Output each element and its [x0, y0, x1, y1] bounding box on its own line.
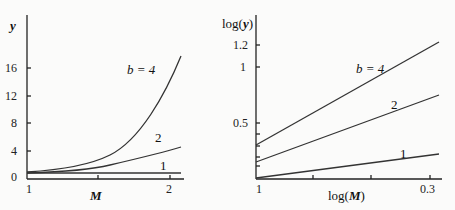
left-xtick-1: 1 [26, 182, 32, 196]
left-curve-b4 [27, 56, 181, 172]
left-label-2: 2 [155, 130, 162, 145]
figure: y 16 12 8 4 0 1 2 M b = 4 2 1 log(y) 1.2 [0, 0, 455, 210]
left-ytick-4: 4 [11, 144, 17, 158]
right-xtick-1: 1 [256, 182, 262, 196]
left-xtick-2: 2 [166, 182, 172, 196]
right-y-label: log(y) [222, 16, 253, 31]
right-label-b4: b = 4 [356, 61, 385, 76]
right-line-b1 [256, 154, 439, 178]
right-line-b2 [256, 95, 439, 162]
left-label-1: 1 [160, 158, 167, 173]
right-ytick-0.5: 0.5 [233, 116, 248, 130]
left-x-label: M [89, 188, 102, 203]
left-ytick-16: 16 [5, 61, 17, 75]
right-line-b4 [256, 42, 439, 145]
left-label-b4: b = 4 [127, 62, 156, 77]
left-ytick-0: 0 [11, 170, 17, 184]
right-ytick-1.2: 1.2 [233, 38, 248, 52]
right-chart: log(y) 1.2 1 0.5 1 0.3 log(M) b = 4 2 1 [222, 15, 442, 203]
right-label-2: 2 [391, 97, 398, 112]
left-y-label: y [8, 18, 16, 33]
left-chart: y 16 12 8 4 0 1 2 M b = 4 2 1 [5, 15, 184, 203]
left-ytick-12: 12 [5, 89, 17, 103]
right-label-1: 1 [400, 146, 407, 161]
right-ytick-1: 1 [240, 60, 246, 74]
right-xtick-0.3: 0.3 [420, 182, 435, 196]
left-curve-b2 [27, 147, 181, 173]
left-ytick-8: 8 [11, 116, 17, 130]
right-x-label: log(M) [328, 188, 365, 203]
